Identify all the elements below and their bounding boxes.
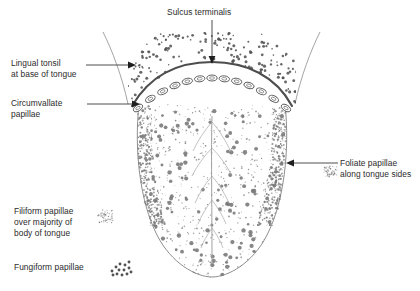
label-lingual-tonsil-line1: Lingual tonsil bbox=[11, 58, 77, 69]
foliate-dot-cluster-icon bbox=[323, 166, 337, 178]
label-circumvallate-line1: Circumvallate bbox=[11, 98, 62, 109]
palatoglossal-arch-left bbox=[103, 32, 128, 104]
label-circumvallate-papillae: Circumvallate papillae bbox=[11, 98, 62, 120]
label-circumvallate-line2: papillae bbox=[11, 109, 62, 120]
fungiform-dot-cluster-icon bbox=[111, 261, 133, 277]
lingual-tonsil bbox=[127, 32, 298, 104]
circumvallate-papilla-center bbox=[222, 77, 227, 80]
filiform-dot-cluster-icon bbox=[97, 209, 113, 223]
label-lingual-tonsil: Lingual tonsil at base of tongue bbox=[11, 58, 77, 80]
circumvallate-papilla-center bbox=[197, 77, 202, 80]
palatoglossal-arch-right bbox=[295, 32, 320, 104]
leader-lingual-tonsil bbox=[86, 62, 136, 69]
tongue-anatomy-svg bbox=[0, 0, 420, 291]
label-sulcus-terminalis: Sulcus terminalis bbox=[167, 7, 231, 18]
label-fungiform-line1: Fungiform papillae bbox=[14, 262, 84, 273]
label-filiform-line2: over majority of bbox=[14, 217, 74, 228]
label-filiform-papillae: Filiform papillae over majority of body … bbox=[14, 206, 74, 240]
circumvallate-papilla-center bbox=[210, 77, 215, 80]
label-filiform-line1: Filiform papillae bbox=[14, 206, 74, 217]
leader-foliate bbox=[286, 160, 338, 167]
leader-circumvallate bbox=[87, 101, 140, 108]
label-fungiform-papillae: Fungiform papillae bbox=[14, 262, 84, 273]
tongue-diagram-figure: Sulcus terminalis Lingual tonsil at base… bbox=[0, 0, 420, 291]
label-filiform-line3: body of tongue bbox=[14, 228, 74, 239]
label-foliate-line2: along tongue sides bbox=[340, 169, 411, 180]
label-lingual-tonsil-line2: at base of tongue bbox=[11, 69, 77, 80]
label-foliate-papillae: Foliate papillae along tongue sides bbox=[340, 158, 411, 180]
sulcus-terminalis bbox=[132, 62, 292, 106]
label-sulcus-terminalis-line1: Sulcus terminalis bbox=[167, 7, 231, 18]
label-foliate-line1: Foliate papillae bbox=[340, 158, 411, 169]
